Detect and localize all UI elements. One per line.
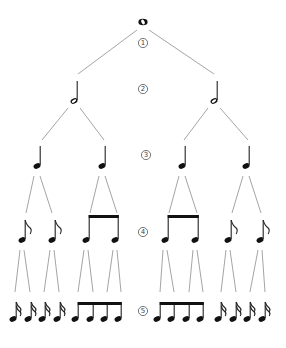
sixteenth-note <box>38 302 50 323</box>
tree-branch-line <box>24 250 30 292</box>
beamed-note <box>196 302 205 323</box>
tree-branch-line <box>90 176 99 213</box>
eighth-note <box>111 215 120 244</box>
tree-branch-line <box>221 250 226 292</box>
tree-branch-line <box>232 176 243 213</box>
beamed-note <box>100 302 109 323</box>
svg-text:1: 1 <box>141 39 145 47</box>
music-notes <box>9 19 270 323</box>
svg-text:5: 5 <box>141 307 145 315</box>
level-label-4: 4 <box>138 227 147 236</box>
tree-branch-line <box>88 250 93 292</box>
level-label-2: 2 <box>138 84 147 93</box>
sixteenth-note <box>214 302 226 323</box>
tree-branch-line <box>197 250 203 292</box>
quarter-note <box>33 146 42 170</box>
eighth-note <box>224 220 238 244</box>
half-note <box>70 81 79 105</box>
eighth-note <box>161 215 170 244</box>
tree-branches <box>15 30 265 292</box>
tree-branch-line <box>15 250 20 292</box>
tree-branch-line <box>167 250 174 292</box>
whole-note <box>138 19 147 25</box>
sixteenth-note <box>229 302 241 323</box>
tree-branch-line <box>189 250 193 292</box>
level-label-1: 1 <box>138 38 147 47</box>
tree-branch-line <box>26 176 34 213</box>
eighth-note <box>48 220 62 244</box>
beamed-note <box>71 302 80 323</box>
svg-text:3: 3 <box>144 151 148 159</box>
tree-branch-line <box>250 250 258 292</box>
tree-branch-line <box>230 250 236 292</box>
tree-branch-line <box>107 250 113 292</box>
tree-branch-line <box>80 108 104 140</box>
quarter-note <box>242 146 251 170</box>
svg-text:4: 4 <box>141 228 146 236</box>
quarter-note <box>98 146 107 170</box>
eighth-note <box>82 215 91 244</box>
beamed-note <box>114 302 123 323</box>
eighth-note <box>256 220 270 244</box>
level-label-3: 3 <box>141 150 150 159</box>
tree-branch-line <box>249 176 261 213</box>
sixteenth-note <box>9 302 21 323</box>
half-note <box>210 81 219 105</box>
tree-branch-line <box>40 176 52 213</box>
tree-branch-line <box>42 108 68 140</box>
quarter-note <box>178 146 187 170</box>
tree-branch-line <box>262 250 265 292</box>
eighth-note <box>18 220 32 244</box>
tree-branch-line <box>149 30 214 74</box>
beamed-note <box>153 302 162 323</box>
tree-branch-line <box>220 108 248 140</box>
sixteenth-note <box>53 302 65 323</box>
sixteenth-note <box>243 302 255 323</box>
tree-branch-line <box>160 250 163 292</box>
tree-branch-line <box>184 108 208 140</box>
svg-text:2: 2 <box>141 85 145 93</box>
beamed-note <box>86 302 95 323</box>
note-value-tree-diagram: 12345 <box>0 0 286 348</box>
tree-branch-line <box>185 176 197 213</box>
tree-branch-line <box>117 250 121 292</box>
beamed-note <box>182 302 191 323</box>
level-labels: 12345 <box>138 38 150 315</box>
sixteenth-note <box>24 302 36 323</box>
eighth-note <box>191 215 200 244</box>
sixteenth-note <box>258 302 270 323</box>
level-label-5: 5 <box>138 306 147 315</box>
tree-branch-line <box>78 30 137 74</box>
beamed-note <box>167 302 176 323</box>
tree-branch-line <box>54 250 59 292</box>
tree-branch-line <box>78 250 84 292</box>
tree-branch-line <box>105 176 117 213</box>
tree-branch-line <box>169 176 179 213</box>
tree-branch-line <box>44 250 50 292</box>
